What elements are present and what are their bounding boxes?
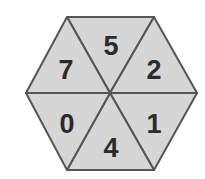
segment-label-lower-right: 1: [146, 109, 161, 139]
segment-label-top: 5: [103, 31, 118, 61]
segment-label-upper-right: 2: [146, 55, 161, 85]
segment-label-lower-left: 0: [59, 109, 74, 139]
segment-label-bottom: 4: [103, 133, 118, 163]
segment-label-upper-left: 7: [58, 55, 73, 85]
hexagon-diagram: 5 2 1 4 0 7: [0, 0, 205, 179]
